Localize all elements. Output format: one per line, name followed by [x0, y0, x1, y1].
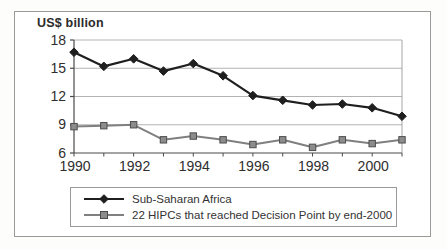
- chart-frame: 69121518199019921994199619982000 US$ bil…: [14, 11, 431, 237]
- diamond-marker-icon: [129, 55, 138, 64]
- diamond-marker-icon: [100, 62, 109, 71]
- legend-label: 22 HIPCs that reached Decision Point by …: [132, 209, 392, 221]
- y-tick-label: 15: [50, 60, 66, 76]
- square-marker-icon: [83, 208, 125, 222]
- square-marker-icon: [250, 141, 256, 147]
- square-marker-icon: [309, 144, 315, 150]
- square-marker-icon: [280, 137, 286, 143]
- diamond-marker-icon: [398, 112, 407, 121]
- diamond-marker-icon: [338, 100, 347, 109]
- y-tick-label: 18: [50, 32, 66, 48]
- y-tick-label: 12: [50, 88, 66, 104]
- legend-item-sub-saharan-africa: Sub-Saharan Africa: [83, 191, 396, 207]
- series-line-1: [74, 125, 402, 148]
- diamond-marker-icon: [278, 96, 287, 105]
- square-marker-icon: [339, 137, 345, 143]
- y-axis-title: US$ billion: [37, 16, 104, 30]
- x-tick-label: 1996: [238, 158, 269, 174]
- diamond-marker-icon: [308, 101, 317, 110]
- x-tick-label: 1990: [59, 158, 90, 174]
- x-tick-label: 2000: [358, 158, 389, 174]
- x-tick-label: 1992: [119, 158, 150, 174]
- square-marker-icon: [101, 122, 107, 128]
- square-marker-icon: [369, 140, 375, 146]
- square-marker-icon: [71, 123, 77, 129]
- diamond-marker-icon: [189, 59, 198, 68]
- square-marker-icon: [160, 137, 166, 143]
- square-marker-icon: [190, 133, 196, 139]
- diamond-marker-icon: [70, 48, 79, 57]
- square-marker-icon: [399, 137, 405, 143]
- page: 69121518199019921994199619982000 US$ bil…: [0, 0, 447, 249]
- x-tick-label: 1998: [298, 158, 329, 174]
- diamond-marker-icon: [83, 192, 125, 206]
- legend-label: Sub-Saharan Africa: [132, 193, 232, 205]
- legend: Sub-Saharan Africa 22 HIPCs that reached…: [70, 187, 397, 227]
- diamond-marker-icon: [368, 104, 377, 113]
- y-tick-label: 9: [58, 116, 66, 132]
- x-tick-label: 1994: [179, 158, 210, 174]
- legend-item-hipcs: 22 HIPCs that reached Decision Point by …: [83, 207, 396, 223]
- square-marker-icon: [220, 137, 226, 143]
- series-line-0: [74, 52, 402, 116]
- square-marker-icon: [130, 122, 136, 128]
